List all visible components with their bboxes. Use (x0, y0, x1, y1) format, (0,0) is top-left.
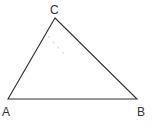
vertex-label-a: A (2, 105, 10, 119)
vertex-label-b: B (137, 105, 145, 119)
faint-dashed-segment (48, 36, 64, 54)
triangle-abc (8, 18, 137, 99)
triangle-diagram: C A B (0, 0, 152, 126)
vertex-label-c: C (50, 3, 59, 17)
